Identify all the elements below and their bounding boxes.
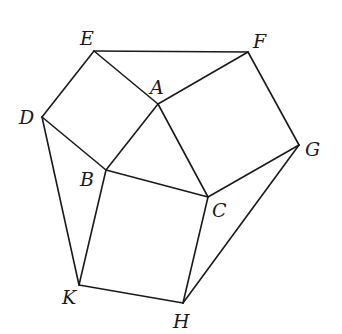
segment-ef — [94, 51, 248, 52]
segment-hk — [79, 285, 183, 303]
label-group: A B C D E F G H K — [18, 27, 320, 332]
point-label-h: H — [172, 310, 190, 332]
point-label-b: B — [79, 168, 94, 190]
segment-ed — [42, 51, 94, 117]
point-label-c: C — [212, 199, 227, 221]
diagram-svg: A B C D E F G H K — [0, 0, 342, 334]
segment-ae — [94, 51, 158, 104]
segment-ca — [158, 104, 208, 197]
point-label-f: F — [252, 30, 267, 52]
point-label-g: G — [305, 138, 320, 160]
segment-fg — [248, 52, 299, 145]
segment-af — [158, 52, 248, 104]
segment-ba — [106, 104, 158, 170]
point-label-e: E — [79, 27, 94, 49]
segment-gc — [208, 145, 299, 197]
point-label-d: D — [18, 106, 34, 128]
geometry-diagram: A B C D E F G H K — [0, 0, 342, 334]
point-label-k: K — [61, 286, 78, 308]
segment-gh — [183, 145, 299, 303]
segment-bc — [106, 170, 208, 197]
point-label-a: A — [148, 76, 164, 98]
